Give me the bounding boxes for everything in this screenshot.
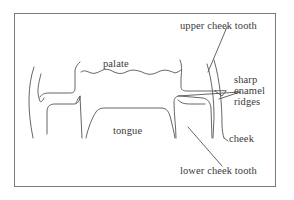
mouth-cross-section-diagram: palate tongue upper cheek tooth sharp en…	[0, 0, 294, 200]
right-lower-tooth-inner	[178, 100, 205, 104]
upper-cheek-tooth-leader	[208, 27, 227, 72]
label-sharp: sharp	[234, 74, 274, 85]
left-upper-tooth	[40, 62, 80, 97]
label-cheek: cheek	[229, 133, 254, 144]
label-palate: palate	[103, 58, 129, 69]
left-cheek-outer	[29, 67, 34, 138]
label-upper-cheek-tooth: upper cheek tooth	[180, 20, 257, 31]
lower-cheek-tooth-leader	[188, 127, 222, 166]
right-lower-tooth	[174, 96, 212, 138]
left-cheek-inner	[38, 74, 44, 102]
label-enamel: enamel	[234, 85, 274, 96]
label-lower-cheek-tooth: lower cheek tooth	[180, 165, 257, 176]
label-ridges: ridges	[234, 96, 274, 107]
label-tongue: tongue	[113, 125, 142, 136]
palate-line	[81, 69, 181, 74]
cheek-leader	[224, 138, 228, 141]
label-sharp-enamel-ridges: sharp enamel ridges	[234, 74, 274, 107]
